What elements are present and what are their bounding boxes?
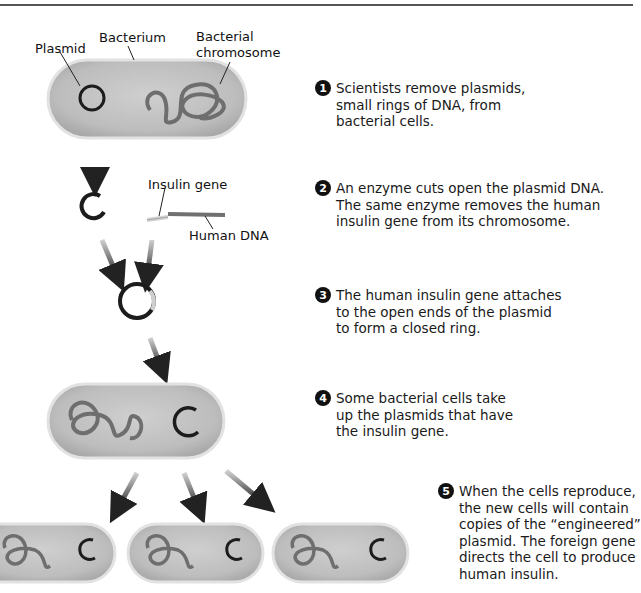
- step-number-badge: 5: [438, 483, 454, 499]
- step-description: The human insulin gene attaches to the o…: [336, 287, 562, 337]
- daughter-cell-1: [0, 524, 115, 582]
- recombinant-plasmid: [120, 284, 154, 318]
- step-2: 2 An enzyme cuts open the plasmid DNA. T…: [315, 180, 604, 230]
- step-number-badge: 2: [315, 180, 331, 196]
- step-5: 5 When the cells reproduce, the new cell…: [438, 483, 641, 582]
- human-dna-strand: [168, 214, 225, 215]
- human-dna-label: Human DNA: [189, 228, 269, 243]
- step-number-badge: 1: [315, 80, 331, 96]
- bacterium-cell-2: [48, 384, 224, 458]
- bacterium-label: Bacterium: [99, 30, 166, 45]
- open-plasmid: [82, 194, 104, 218]
- step-description: Some bacterial cells take up the plasmid…: [336, 390, 513, 440]
- insulin-gene-label: Insulin gene: [148, 177, 227, 192]
- step-3: 3 The human insulin gene attaches to the…: [315, 287, 562, 337]
- step-number-badge: 4: [315, 390, 331, 406]
- step-4: 4 Some bacterial cells take up the plasm…: [315, 390, 513, 440]
- bacterium-cell-1: [48, 60, 246, 138]
- daughter-cell-3: [273, 524, 408, 582]
- step-description: When the cells reproduce, the new cells …: [459, 483, 641, 582]
- step-1: 1 Scientists remove plasmids, small ring…: [315, 80, 525, 130]
- step-description: An enzyme cuts open the plasmid DNA. The…: [336, 180, 604, 230]
- bacterial-chromosome-label-line1: Bacterial: [196, 29, 254, 44]
- daughter-cell-2: [128, 524, 263, 582]
- step-description: Scientists remove plasmids, small rings …: [336, 80, 525, 130]
- bacterial-chromosome-label-line2: chromosome: [196, 45, 280, 60]
- plasmid-label: Plasmid: [35, 41, 86, 56]
- step-number-badge: 3: [315, 287, 331, 303]
